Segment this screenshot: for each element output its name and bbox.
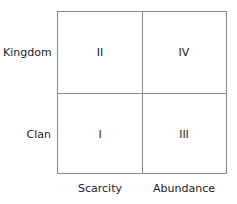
row-label-clan: Clan [3,128,51,141]
column-label-scarcity: Scarcity [78,182,122,195]
quadrant-grid [57,11,227,174]
cell-bottom-left: I [98,128,101,141]
cell-top-right: IV [179,46,190,59]
horizontal-divider [58,93,226,94]
column-label-abundance: Abundance [153,182,215,195]
cell-top-left: II [97,46,104,59]
row-label-kingdom: Kingdom [3,46,51,59]
cell-bottom-right: III [179,128,189,141]
